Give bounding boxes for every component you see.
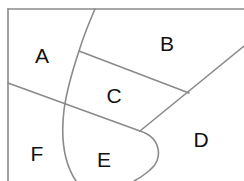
region-diagram: A B C D E F <box>0 0 244 181</box>
boundary-b-c <box>79 51 189 93</box>
boundary-e-loop <box>134 131 158 181</box>
region-label-f: F <box>31 143 44 164</box>
boundary-d <box>140 46 244 131</box>
region-label-c: C <box>106 85 121 106</box>
region-label-d: D <box>193 129 208 150</box>
region-label-a: A <box>35 45 49 66</box>
region-label-b: B <box>160 33 174 54</box>
curved-boundary-main <box>63 9 95 181</box>
region-label-e: E <box>97 149 111 170</box>
